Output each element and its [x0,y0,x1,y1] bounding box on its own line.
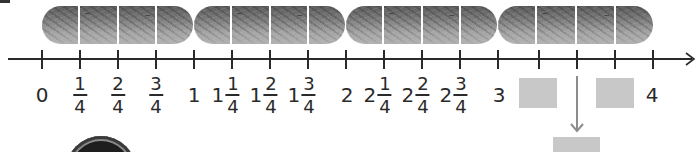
numerator: 1 [377,74,392,93]
quarter-segment [80,6,116,44]
label-0: 0 [36,83,49,107]
whole-part: 1 [287,83,300,107]
tick-2-1-4 [383,50,385,69]
denominator: 4 [265,97,276,116]
quarter-segment [157,6,193,44]
quarter-segment [498,6,535,44]
label-2-4: 24 [110,74,125,116]
label-3-4: 34 [148,74,163,116]
label-1-3-4: 1 34 [287,74,316,116]
tick-2-3-4 [459,50,461,69]
quarter-segment [423,6,459,44]
coin-icon [66,136,136,152]
quarter-segment [577,6,614,44]
label-2-1-4: 2 14 [363,74,392,116]
quarter-segment [194,6,230,44]
axis-arrow-head-icon [684,52,697,66]
tick-3-3-4 [614,50,616,69]
tick-3-4 [155,50,157,69]
quarter-segment [232,6,268,44]
tick-3 [497,50,499,69]
denominator: 4 [74,97,85,116]
tick-1-1-4 [231,50,233,69]
whole-part: 2 [439,83,452,107]
tick-1-2-4 [269,50,271,69]
denominator: 4 [227,97,238,116]
denominator: 4 [417,97,428,116]
number-line-axis [8,58,692,60]
denominator: 4 [112,97,123,116]
quarter-segment [616,6,653,44]
corner-mark [0,0,10,3]
denominator: 4 [303,97,314,116]
tick-2-4 [117,50,119,69]
tick-0 [41,50,43,69]
label-3: 3 [493,83,506,107]
tick-4 [652,50,654,69]
label-1-2-4: 1 24 [249,74,278,116]
numerator: 2 [263,74,278,93]
numerator: 1 [72,74,87,93]
quarter-segment [309,6,345,44]
whole-bar-4 [498,6,653,44]
tick-2 [345,50,347,69]
label-2-3-4: 2 34 [439,74,468,116]
answer-box-3-3-4[interactable] [596,78,634,108]
label-1: 1 [188,83,201,107]
whole-bar-2 [194,6,345,44]
numerator: 2 [415,74,430,93]
whole-part: 2 [363,83,376,107]
tick-2-2-4 [421,50,423,69]
whole-bar-1 [42,6,193,44]
denominator: 4 [455,97,466,116]
numerator: 3 [453,74,468,93]
tick-1 [193,50,195,69]
tick-3-1-4 [538,50,540,69]
numerator: 3 [148,74,163,93]
label-1-1-4: 1 14 [211,74,240,116]
quarter-segment [346,6,382,44]
numerator: 3 [301,74,316,93]
label-4: 4 [646,83,659,107]
tick-1-3-4 [307,50,309,69]
answer-box-3-2-4[interactable] [553,137,600,152]
tick-3-2-4 [576,50,578,69]
whole-part: 2 [401,83,414,107]
quarter-segment [271,6,307,44]
quarter-segment [42,6,78,44]
tick-1-4 [79,50,81,69]
label-1-4: 14 [72,74,87,116]
quarter-segment [384,6,420,44]
denominator: 4 [379,97,390,116]
whole-part: 1 [211,83,224,107]
quarter-segment [537,6,574,44]
numerator: 2 [110,74,125,93]
numerator: 1 [225,74,240,93]
label-2: 2 [341,83,354,107]
whole-bar-3 [346,6,497,44]
down-arrow-icon [570,76,584,134]
quarter-segment [461,6,497,44]
whole-part: 1 [249,83,262,107]
label-2-2-4: 2 24 [401,74,430,116]
denominator: 4 [150,97,161,116]
quarter-segment [119,6,155,44]
answer-box-3-1-4[interactable] [519,78,557,108]
